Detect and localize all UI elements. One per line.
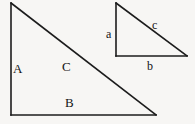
small-triangle-label-b: b <box>147 60 153 72</box>
large-triangle-label-B: B <box>65 96 74 109</box>
small-triangle-label-c: c <box>152 19 157 31</box>
large-triangle-label-C: C <box>62 60 71 73</box>
similar-triangles-diagram: A B C a b c <box>0 0 195 124</box>
large-triangle-hypotenuse-C <box>11 3 156 115</box>
triangles-canvas <box>0 0 195 124</box>
large-triangle-label-A: A <box>13 62 22 75</box>
small-triangle-label-a: a <box>106 28 111 40</box>
large-right-triangle <box>11 3 156 115</box>
